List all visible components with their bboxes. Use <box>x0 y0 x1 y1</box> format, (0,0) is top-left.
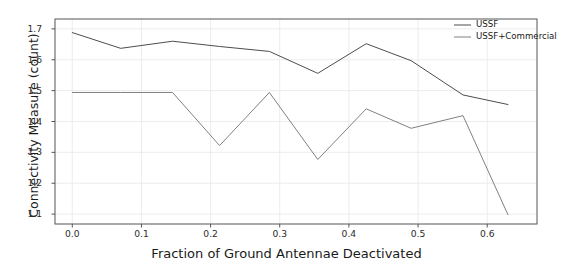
y-tick-label: 1.1 <box>8 208 42 219</box>
y-tick-label: 1.2 <box>8 177 42 188</box>
x-tick-label: 0.6 <box>467 228 507 239</box>
x-tick-label: 0.0 <box>52 228 92 239</box>
y-tick-label: 1.5 <box>8 85 42 96</box>
x-axis-label: Fraction of Ground Antennae Deactivated <box>0 246 573 261</box>
x-tick-label: 0.1 <box>121 228 161 239</box>
y-tick-label: 1.7 <box>8 23 42 34</box>
x-tick-label: 0.3 <box>260 228 300 239</box>
chart-figure: Connectivity Measure (count) Fraction of… <box>0 0 573 271</box>
plot-axes <box>52 19 538 228</box>
y-tick-label: 1.6 <box>8 54 42 65</box>
legend-swatches <box>454 25 471 37</box>
y-tick-label: 1.3 <box>8 146 42 157</box>
x-tick-label: 0.4 <box>329 228 369 239</box>
legend-label: USSF+Commercial <box>476 31 557 41</box>
y-tick-label: 1.4 <box>8 116 42 127</box>
grid-lines <box>55 19 537 224</box>
x-tick-label: 0.2 <box>191 228 231 239</box>
legend-label: USSF <box>476 19 498 29</box>
x-tick-label: 0.5 <box>398 228 438 239</box>
